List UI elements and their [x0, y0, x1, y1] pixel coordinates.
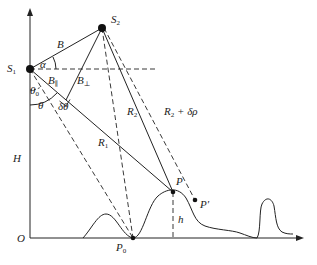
label-p-prime: P′: [199, 198, 210, 210]
label-alpha: α: [40, 58, 46, 70]
label-h-uppercase: H: [12, 152, 22, 164]
label-origin: O: [17, 232, 25, 244]
terrain-profile: [83, 190, 293, 238]
insar-geometry-diagram: S1 S2 B α B∥ B⊥ θ0 θ δθ R1 R2 R2 + δρ H …: [0, 0, 317, 265]
label-s2: S2: [111, 13, 121, 27]
label-p0: P0: [115, 241, 127, 255]
s1-to-p0-dashed: [30, 69, 133, 238]
label-theta: θ: [38, 99, 44, 111]
s2-to-p0-dashed: [102, 28, 133, 238]
range-r1: [30, 69, 173, 192]
label-p: P: [175, 175, 183, 187]
target-p-point: [171, 190, 176, 195]
satellite-s1-point: [26, 65, 34, 73]
diagram-canvas: S1 S2 B α B∥ B⊥ θ0 θ δθ R1 R2 R2 + δρ H …: [0, 0, 317, 265]
label-s1: S1: [7, 62, 17, 76]
label-b-perp: B⊥: [77, 74, 90, 88]
label-r2-plus-drho: R2 + δρ: [163, 105, 198, 119]
label-theta0: θ0: [30, 84, 39, 98]
label-b-parallel: B∥: [48, 74, 58, 88]
alpha-arc: [53, 57, 56, 69]
range-r2: [102, 28, 173, 192]
label-r1: R1: [97, 136, 109, 150]
label-delta-theta: δθ: [58, 100, 69, 112]
reference-p0-point: [131, 236, 136, 241]
label-b: B: [57, 38, 64, 50]
satellite-s2-point: [98, 24, 106, 32]
label-h-lowercase: h: [178, 213, 184, 225]
target-p-prime-point: [193, 198, 198, 203]
